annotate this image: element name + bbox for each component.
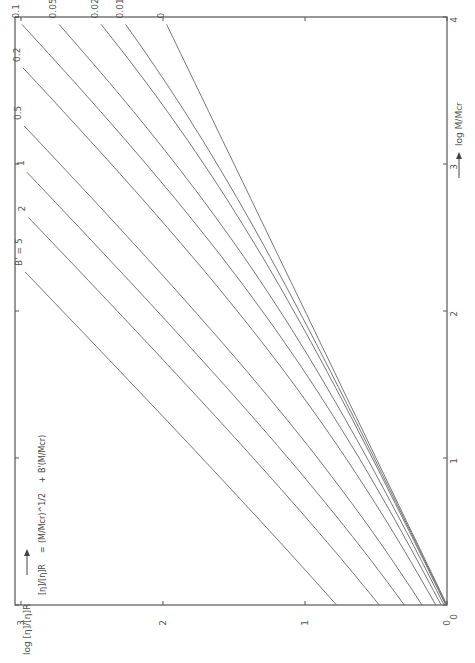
plot-frame [15, 17, 447, 605]
y-axis-label: log [η]/[η]R [22, 549, 32, 655]
series-line-2 [28, 218, 379, 606]
curves [22, 24, 447, 605]
formula-term1: (M/Mcr)^1/2 [38, 493, 47, 543]
chart: 012340123B' = 5210.50.20.10.050.020.010 … [0, 0, 475, 663]
formula-plus: + [38, 476, 47, 483]
series-line-0-01 [126, 24, 447, 605]
series-label-2: 2 [17, 206, 27, 212]
x-tick-label: 1 [449, 458, 459, 464]
formula: [η]/[η]R = (M/Mcr)^1/2 + B'(M/Mcr) [38, 435, 47, 595]
series-label-0: 0 [156, 12, 166, 18]
series-label-1: 1 [16, 160, 26, 166]
y-tick-label: 0 [442, 620, 452, 626]
series-label-0-02: 0.02 [90, 0, 100, 18]
series-label-0-05: 0.05 [48, 0, 58, 18]
y-tick-label: 2 [158, 620, 168, 626]
series-line-0-2 [23, 68, 436, 605]
y-axis-label-text: log [η]/[η]R [22, 604, 32, 655]
y-axis-arrow-icon [24, 549, 30, 556]
series-label-0-5: 0.5 [13, 106, 23, 120]
series-line-5 [25, 272, 337, 605]
x-tick-label: 4 [449, 17, 459, 23]
x-tick-label: 0 [449, 614, 459, 620]
formula-lhs: [η]/[η]R [38, 564, 47, 595]
series-line-0-1 [22, 24, 441, 605]
y-tick-label: 1 [300, 620, 310, 626]
series-label-0-01: 0.01 [115, 0, 125, 18]
ticks [15, 17, 447, 605]
x-axis-label-text: log M/Mcr [454, 102, 464, 146]
formula-term2: B'(M/Mcr) [38, 435, 47, 473]
series-label-0-1: 0.1 [11, 4, 21, 18]
labels: 012340123B' = 5210.50.20.10.050.020.010 [11, 0, 459, 626]
x-axis-arrow-icon [456, 152, 462, 159]
series-label-0-2: 0.2 [12, 48, 22, 62]
series-line-0-05 [59, 24, 444, 605]
series-label-5: B' = 5 [14, 238, 24, 266]
x-tick-label: 2 [449, 311, 459, 317]
series-line-1 [27, 172, 405, 605]
formula-equals: = [38, 546, 47, 553]
series-line-0-5 [24, 126, 422, 605]
x-tick-label: 3 [449, 164, 459, 170]
